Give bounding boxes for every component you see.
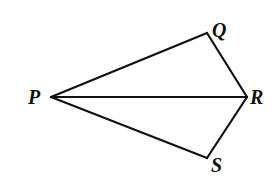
geometry-diagram: P Q R S [0, 0, 272, 185]
segment-qr [207, 33, 247, 97]
vertex-label-s: S [211, 154, 222, 176]
edges [51, 33, 247, 158]
vertex-label-r: R [249, 86, 263, 108]
vertex-label-p: P [27, 86, 41, 108]
segment-ps [51, 97, 207, 158]
segment-pq [51, 33, 207, 97]
segment-sr [207, 97, 247, 158]
vertex-label-q: Q [212, 19, 226, 41]
